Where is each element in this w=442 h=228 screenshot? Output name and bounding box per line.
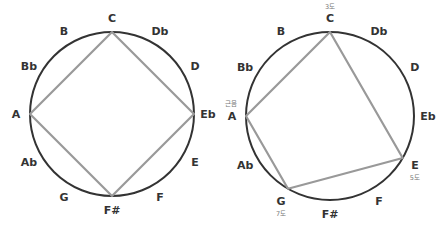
note-label-db: Db bbox=[370, 25, 387, 38]
note-label-g: G bbox=[59, 191, 68, 204]
note-label-c: C bbox=[326, 12, 334, 25]
note-label-ab: Ab bbox=[21, 156, 38, 169]
note-label-f-sharp: F# bbox=[322, 208, 339, 221]
note-label-f-sharp: F# bbox=[104, 204, 121, 217]
chord-polygon bbox=[246, 32, 403, 189]
note-label-e: E bbox=[411, 159, 419, 172]
degree-annotation-g: 7도 bbox=[276, 210, 286, 218]
note-label-eb: Eb bbox=[420, 110, 436, 123]
note-label-c: C bbox=[108, 12, 116, 25]
left-circle-diagram: CDbDEbEFF#GAbABbB bbox=[12, 12, 216, 217]
note-circle bbox=[246, 32, 414, 200]
note-label-eb: Eb bbox=[200, 108, 216, 121]
note-label-a: A bbox=[228, 110, 237, 123]
note-label-a: A bbox=[12, 108, 21, 121]
right-circle-diagram: CDbDEbEFF#GAbABbB근음3도5도7도 bbox=[225, 3, 436, 221]
degree-annotation-e: 5도 bbox=[410, 174, 420, 182]
note-label-db: Db bbox=[151, 25, 168, 38]
note-label-b: B bbox=[60, 25, 68, 38]
note-circle bbox=[30, 32, 194, 196]
degree-annotation-c: 3도 bbox=[325, 3, 335, 11]
note-label-bb: Bb bbox=[237, 61, 253, 74]
note-label-e: E bbox=[191, 156, 199, 169]
note-label-ab: Ab bbox=[237, 159, 254, 172]
note-label-bb: Bb bbox=[21, 60, 37, 73]
note-label-f: F bbox=[375, 195, 383, 208]
note-label-g: G bbox=[276, 195, 285, 208]
note-label-f: F bbox=[156, 191, 164, 204]
note-label-d: D bbox=[191, 60, 200, 73]
degree-annotation-a: 근음 bbox=[225, 100, 237, 108]
note-label-d: D bbox=[410, 61, 419, 74]
chord-circles-figure: CDbDEbEFF#GAbABbB CDbDEbEFF#GAbABbB근음3도5… bbox=[0, 0, 442, 228]
note-label-b: B bbox=[277, 25, 285, 38]
